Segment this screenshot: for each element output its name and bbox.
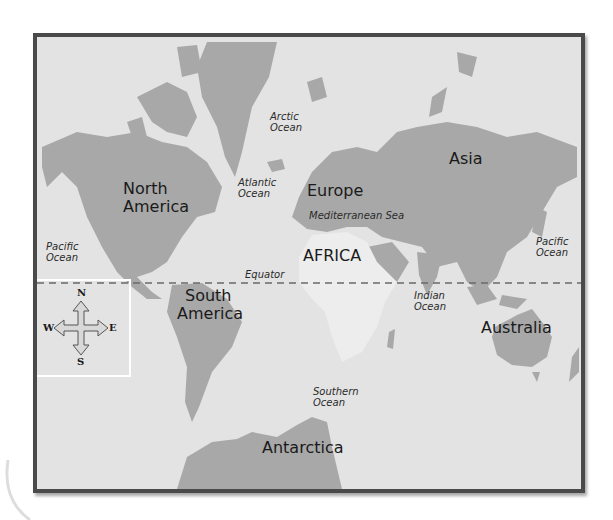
greenland-landmass bbox=[197, 42, 277, 177]
label-pacific-ocean-west-line2: Ocean bbox=[46, 252, 78, 263]
label-indian-ocean-line2: Ocean bbox=[414, 301, 446, 312]
label-south-america: South America bbox=[177, 287, 243, 322]
label-pacific-ocean-west: Pacific Ocean bbox=[46, 241, 78, 263]
label-south-america-line1: South bbox=[177, 287, 243, 305]
india-landmass bbox=[417, 252, 442, 295]
label-africa: AFRICA bbox=[303, 247, 361, 265]
label-pacific-ocean-east-line1: Pacific bbox=[536, 236, 568, 247]
label-indian-ocean-line1: Indian bbox=[414, 290, 446, 301]
label-southern-ocean-line2: Ocean bbox=[313, 397, 359, 408]
compass-west: W bbox=[43, 322, 54, 333]
compass-rose: N S E W bbox=[33, 279, 131, 377]
label-southern-ocean-line1: Southern bbox=[313, 386, 359, 397]
label-north-america-line2: America bbox=[123, 198, 189, 216]
label-atlantic-ocean: Atlantic Ocean bbox=[238, 177, 276, 199]
label-north-america: North America bbox=[123, 180, 189, 215]
label-north-america-line1: North bbox=[123, 180, 189, 198]
label-indian-ocean: Indian Ocean bbox=[414, 290, 446, 312]
label-south-america-line2: America bbox=[177, 305, 243, 323]
arctic-islands-landmass bbox=[137, 82, 197, 137]
compass-east: E bbox=[109, 322, 117, 333]
label-asia: Asia bbox=[449, 150, 483, 168]
label-pacific-ocean-east: Pacific Ocean bbox=[536, 236, 568, 258]
world-map: North America South America Europe Asia … bbox=[33, 33, 585, 493]
label-arctic-ocean-line2: Ocean bbox=[270, 122, 302, 133]
label-pacific-ocean-east-line2: Ocean bbox=[536, 247, 568, 258]
label-arctic-ocean-line1: Arctic bbox=[270, 111, 302, 122]
label-antarctica: Antarctica bbox=[262, 439, 344, 457]
label-equator: Equator bbox=[245, 269, 284, 280]
label-australia: Australia bbox=[481, 319, 552, 337]
compass-north: N bbox=[77, 287, 86, 298]
label-pacific-ocean-west-line1: Pacific bbox=[46, 241, 78, 252]
compass-south: S bbox=[77, 356, 84, 367]
label-atlantic-ocean-line2: Ocean bbox=[238, 188, 276, 199]
label-atlantic-ocean-line1: Atlantic bbox=[238, 177, 276, 188]
label-mediterranean-sea: Mediterranean Sea bbox=[309, 210, 404, 221]
label-southern-ocean: Southern Ocean bbox=[313, 386, 359, 408]
label-arctic-ocean: Arctic Ocean bbox=[270, 111, 302, 133]
label-europe: Europe bbox=[307, 182, 363, 200]
